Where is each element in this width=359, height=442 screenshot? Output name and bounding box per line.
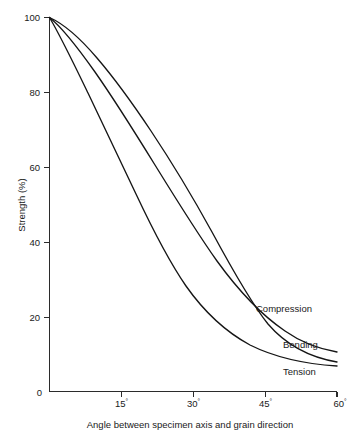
series-label-bending: Bending: [283, 339, 318, 350]
y-tick-label-80: 80: [29, 87, 40, 98]
x-tick-label-60: 60°: [333, 398, 347, 410]
x-tick-label-15-value: 15: [115, 398, 126, 409]
x-tick-label-30-value: 30: [187, 398, 198, 409]
x-tick-label-60-value: 60: [333, 398, 344, 409]
x-tick-label-15: 15°: [115, 398, 129, 410]
y-axis-title: Strength (%): [16, 178, 27, 231]
chart-canvas: 100 80 60 40 20 0 15° 30° 45° 60° Streng…: [0, 0, 359, 442]
x-tick-label-30-degree: °: [197, 398, 200, 405]
series-curve-bending: [50, 18, 338, 353]
x-tick-label-60-degree: °: [344, 398, 347, 405]
x-tick-group: [122, 392, 338, 398]
y-tick-label-40: 40: [29, 237, 40, 248]
x-tick-label-30: 30°: [187, 398, 201, 410]
axis-group: [50, 17, 338, 392]
series-label-tension: Tension: [283, 366, 316, 377]
y-tick-label-0: 0: [37, 387, 42, 398]
x-tick-label-45: 45°: [259, 398, 273, 410]
x-axis-title: Angle between specimen axis and grain di…: [87, 419, 294, 430]
x-tick-label-15-degree: °: [125, 398, 128, 405]
y-tick-label-20: 20: [29, 312, 40, 323]
x-tick-label-45-degree: °: [269, 398, 272, 405]
y-tick-group: [44, 18, 50, 318]
y-tick-label-100: 100: [24, 12, 40, 23]
x-tick-label-45-value: 45: [259, 398, 270, 409]
y-tick-label-60: 60: [29, 162, 40, 173]
chart-figure: 100 80 60 40 20 0 15° 30° 45° 60° Streng…: [0, 0, 359, 442]
series-label-compression: Compression: [256, 303, 312, 314]
